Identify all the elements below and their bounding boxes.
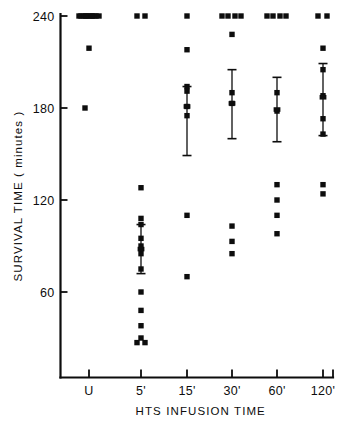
data-point-5m-10 (138, 308, 143, 313)
y-tick-label-180: 180 (33, 102, 55, 116)
x-tick-label-120m: 120' (311, 384, 335, 398)
mean-marker-30m (229, 101, 236, 106)
plot-canvas: 60120180240U5'15'30'60'120' HTS INFUSION… (0, 0, 345, 421)
data-point-30m-8 (229, 239, 234, 244)
data-point-60m-6 (274, 182, 279, 187)
data-point-120m-0 (315, 13, 320, 18)
data-point-5m-1 (142, 13, 147, 18)
x-tick-label-5m: 5' (136, 384, 146, 398)
x-axis-title: HTS INFUSION TIME (136, 405, 266, 417)
x-tick-label-60m: 60' (268, 384, 285, 398)
data-point-30m-7 (229, 223, 234, 228)
x-tick-label-15m: 15' (178, 384, 195, 398)
y-tick-label-240: 240 (33, 10, 55, 24)
data-point-15m-0 (184, 13, 189, 18)
data-point-30m-2 (232, 13, 237, 18)
data-point-5m-12 (138, 335, 143, 340)
axes-group: 60120180240U5'15'30'60'120' (33, 10, 335, 398)
data-point-5m-2 (138, 185, 143, 190)
data-point-60m-1 (270, 13, 275, 18)
axis-labels-group: HTS INFUSION TIMESURVIVAL TIME ( minutes… (12, 111, 266, 417)
survival-time-scatter-figure: 60120180240U5'15'30'60'120' HTS INFUSION… (0, 0, 345, 421)
data-point-U-4 (76, 13, 81, 18)
data-point-60m-8 (274, 213, 279, 218)
data-point-5m-14 (142, 340, 147, 345)
data-point-60m-3 (283, 13, 288, 18)
mean-marker-5m (138, 247, 145, 252)
data-point-U-10 (89, 13, 94, 18)
x-tick-label-30m: 30' (223, 384, 240, 398)
data-point-5m-13 (134, 340, 139, 345)
data-point-5m-0 (134, 13, 139, 18)
data-point-30m-4 (229, 32, 234, 37)
data-point-120m-7 (320, 182, 325, 187)
data-point-60m-2 (277, 13, 282, 18)
data-point-60m-9 (274, 231, 279, 236)
data-point-U-9 (83, 13, 88, 18)
data-point-30m-0 (219, 13, 224, 18)
data-point-15m-1 (184, 47, 189, 52)
data-points-group (76, 13, 329, 345)
data-point-120m-2 (320, 46, 325, 51)
data-point-120m-1 (324, 13, 329, 18)
data-point-5m-11 (138, 323, 143, 328)
data-point-60m-0 (264, 13, 269, 18)
data-point-U-8 (96, 13, 101, 18)
x-tick-label-U: U (84, 384, 93, 398)
y-tick-label-60: 60 (40, 286, 55, 300)
data-point-U-12 (82, 105, 87, 110)
y-axis-title: SURVIVAL TIME ( minutes ) (12, 111, 24, 282)
mean-marker-120m (320, 95, 327, 100)
data-point-120m-8 (320, 191, 325, 196)
mean-marker-60m (274, 107, 281, 112)
data-point-30m-9 (229, 251, 234, 256)
y-tick-label-120: 120 (33, 194, 55, 208)
mean-marker-15m (184, 104, 191, 109)
data-point-30m-1 (225, 13, 230, 18)
data-point-60m-7 (274, 197, 279, 202)
data-point-5m-9 (138, 289, 143, 294)
data-point-15m-6 (184, 213, 189, 218)
data-point-5m-3 (138, 216, 143, 221)
data-point-30m-3 (238, 13, 243, 18)
data-point-U-11 (86, 46, 91, 51)
data-point-15m-7 (184, 274, 189, 279)
